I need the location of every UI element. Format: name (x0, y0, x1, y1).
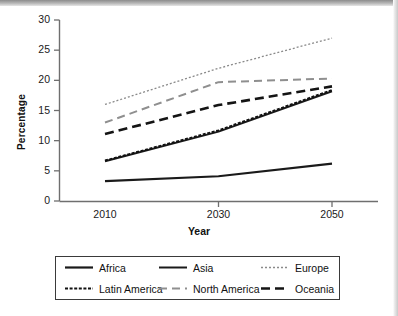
legend-item-africa[interactable]: Africa (56, 262, 150, 274)
legend-item-latin-america[interactable]: Latin America (56, 283, 150, 295)
series-line-oceania (105, 86, 332, 134)
legend-label: North America (193, 283, 260, 295)
y-tick-label: 0 (22, 194, 50, 206)
legend-swatch-solid-thin-black (158, 262, 188, 273)
series-line-africa (105, 164, 332, 181)
x-tick-marks (219, 202, 333, 208)
legend-item-asia[interactable]: Asia (150, 262, 252, 274)
data-series-group (105, 38, 332, 181)
y-tick-label: 20 (22, 73, 50, 85)
x-axis-title: Year (0, 225, 398, 237)
series-line-europe (105, 38, 332, 104)
y-tick-label: 30 (22, 13, 50, 25)
legend-item-north-america[interactable]: North America (150, 283, 252, 295)
y-tick-label: 5 (22, 164, 50, 176)
legend-item-oceania[interactable]: Oceania (252, 283, 341, 295)
x-tick-label: 2010 (75, 208, 135, 220)
legend-label: Africa (99, 262, 126, 274)
y-tick-label: 25 (22, 43, 50, 55)
series-line-north-america (105, 79, 332, 123)
y-tick-label: 15 (22, 104, 50, 116)
legend-swatch-dotted-gray (260, 262, 290, 273)
legend-label: Asia (193, 262, 213, 274)
legend-label: Oceania (295, 283, 334, 295)
legend-grid: AfricaAsiaEuropeLatin AmericaNorth Ameri… (56, 257, 339, 299)
legend-swatch-fine-dashed-black (64, 283, 94, 294)
line-chart-figure: Percentage 051015202530 201020302050 Yea… (0, 0, 398, 316)
legend-item-europe[interactable]: Europe (252, 262, 341, 274)
legend-swatch-solid-thick-black (64, 262, 94, 273)
legend-label: Europe (295, 262, 329, 274)
y-tick-marks (54, 20, 60, 201)
x-tick-label: 2030 (189, 208, 249, 220)
chart-legend: AfricaAsiaEuropeLatin AmericaNorth Ameri… (55, 256, 340, 300)
legend-swatch-dashed-gray (158, 283, 188, 294)
y-tick-label: 10 (22, 134, 50, 146)
x-tick-label: 2050 (302, 208, 362, 220)
legend-swatch-dashed-thick-black (260, 283, 290, 294)
